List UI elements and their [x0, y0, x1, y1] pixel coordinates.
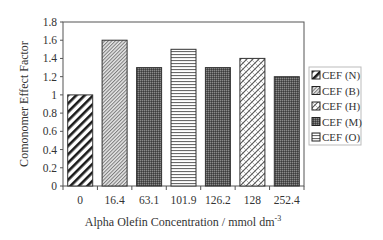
y-tick-label: 1.2 — [43, 71, 58, 83]
y-axis-title: Comonomer Effect Factor — [17, 41, 31, 167]
y-tick-label: 0 — [51, 180, 57, 192]
legend-swatch-icon — [312, 118, 320, 126]
y-tick-label: 1.6 — [43, 34, 58, 46]
y-tick-label: 0.8 — [43, 107, 58, 119]
x-tick-label: 101.9 — [171, 194, 197, 206]
x-tick-label: 63.1 — [139, 194, 159, 206]
y-axis: 00.20.40.60.811.21.41.61.8 — [43, 16, 63, 192]
bar-252.4 — [274, 77, 299, 186]
y-tick-label: 0.2 — [43, 162, 58, 174]
legend-label: CEF (O) — [322, 131, 361, 144]
plot-area: 00.20.40.60.811.21.41.61.8 016.463.1101.… — [43, 16, 304, 206]
y-tick-label: 0.6 — [43, 125, 58, 137]
bar-63.1 — [137, 68, 162, 186]
bars-group — [68, 40, 300, 186]
legend-label: CEF (B) — [322, 85, 360, 98]
legend-swatch-icon — [312, 87, 320, 95]
bar-16.4 — [102, 40, 127, 186]
legend-label: CEF (M) — [322, 116, 362, 129]
legend-swatch-icon — [312, 102, 320, 110]
legend: CEF (N)CEF (B)CEF (H)CEF (M)CEF (O) — [309, 67, 362, 145]
bar-0 — [68, 95, 93, 186]
bar-128 — [240, 58, 265, 186]
x-axis-title: Alpha Olefin Concentration / mmol dm-3 — [85, 214, 281, 229]
x-tick-label: 252.4 — [274, 194, 300, 206]
chart-svg: 00.20.40.60.811.21.41.61.8 016.463.1101.… — [0, 0, 383, 240]
bar-101.9 — [171, 49, 196, 186]
y-tick-label: 0.4 — [43, 144, 58, 156]
x-tick-label: 128 — [244, 194, 262, 206]
x-axis-title-superscript: -3 — [274, 214, 281, 223]
y-tick-label: 1.4 — [43, 52, 58, 64]
y-tick-label: 1 — [51, 89, 57, 101]
legend-swatch-icon — [312, 71, 320, 79]
legend-label: CEF (N) — [322, 69, 361, 82]
x-tick-label: 126.2 — [205, 194, 231, 206]
legend-swatch-icon — [312, 133, 320, 141]
x-axis-title-text: Alpha Olefin Concentration / mmol dm — [85, 215, 275, 229]
x-axis: 016.463.1101.9126.2128252.4 — [63, 186, 304, 206]
x-tick-label: 16.4 — [105, 194, 125, 206]
bar-126.2 — [205, 68, 230, 186]
legend-label: CEF (H) — [322, 100, 361, 113]
y-tick-label: 1.8 — [43, 16, 58, 28]
x-tick-label: 0 — [77, 194, 83, 206]
